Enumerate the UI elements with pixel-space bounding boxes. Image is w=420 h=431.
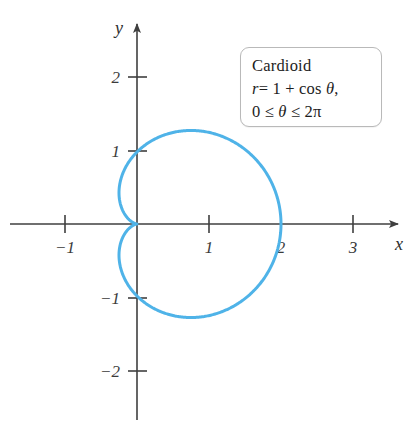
domain-upper: ≤ 2π bbox=[287, 102, 322, 121]
x-tick-label: 3 bbox=[348, 238, 358, 257]
annotation-equation: r= 1 + cos θ, bbox=[252, 77, 381, 100]
equation-comma: , bbox=[334, 79, 338, 98]
annotation-domain: 0 ≤ θ ≤ 2π bbox=[252, 100, 381, 123]
x-axis-tick-labels: −1 1 2 3 bbox=[55, 238, 357, 257]
equation-body: = 1 + cos bbox=[259, 79, 326, 98]
y-tick-label: 1 bbox=[112, 142, 121, 161]
domain-lower: 0 ≤ bbox=[252, 102, 278, 121]
domain-theta: θ bbox=[278, 102, 286, 121]
y-tick-label: −1 bbox=[100, 289, 120, 308]
y-tick-label: −2 bbox=[100, 362, 120, 381]
cardioid-figure: −1 1 2 3 2 1 −1 −2 x y Cardioid r= 1 + c… bbox=[0, 0, 420, 431]
x-tick-label: −1 bbox=[55, 238, 75, 257]
x-tick-label: 1 bbox=[205, 238, 214, 257]
equation-variable-r: r bbox=[252, 79, 259, 98]
annotation-title: Cardioid bbox=[252, 54, 381, 77]
x-axis-label: x bbox=[394, 234, 403, 254]
annotation-box: Cardioid r= 1 + cos θ, 0 ≤ θ ≤ 2π bbox=[240, 47, 382, 127]
y-tick-label: 2 bbox=[112, 68, 121, 87]
y-axis-label: y bbox=[113, 18, 123, 38]
